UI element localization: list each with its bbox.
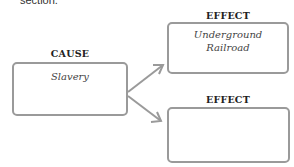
- arrows: [0, 0, 294, 167]
- arrow-to-effect-1: [128, 65, 163, 92]
- arrow-to-effect-2: [128, 96, 161, 122]
